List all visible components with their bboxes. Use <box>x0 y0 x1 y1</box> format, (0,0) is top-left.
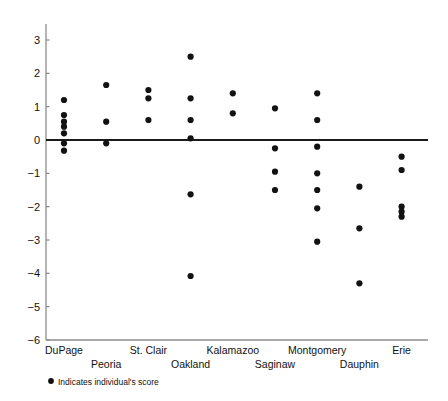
data-point <box>314 90 320 96</box>
data-point <box>61 97 67 103</box>
category-label: Erie <box>392 344 411 356</box>
data-point <box>314 205 320 211</box>
data-point <box>103 140 109 146</box>
data-point <box>61 130 67 136</box>
category-label: St. Clair <box>130 344 168 356</box>
y-tick-label: 1 <box>34 101 40 113</box>
y-tick-label: 2 <box>34 67 40 79</box>
data-point <box>188 135 194 141</box>
chart-canvas: 3210−1−2−3−4−5−6 DuPagePeoriaSt. ClairOa… <box>0 0 448 401</box>
category-label-group: DuPagePeoriaSt. ClairOaklandKalamazooSag… <box>45 344 411 370</box>
category-label: Peoria <box>91 358 122 370</box>
data-point <box>314 239 320 245</box>
legend-marker-icon <box>48 378 54 384</box>
data-point <box>61 124 67 130</box>
data-point <box>230 110 236 116</box>
data-point <box>272 145 278 151</box>
y-tick-label: 0 <box>34 134 40 146</box>
chart-legend: Indicates individual's score <box>48 377 159 387</box>
data-point <box>103 82 109 88</box>
data-point <box>188 54 194 60</box>
data-point <box>399 154 405 160</box>
data-point <box>188 95 194 101</box>
y-tick-label-group: 3210−1−2−3−4−5−6 <box>27 34 40 346</box>
category-label: Montgomery <box>288 344 347 356</box>
category-label: Saginaw <box>255 358 296 370</box>
data-point <box>314 187 320 193</box>
data-point <box>272 169 278 175</box>
data-point <box>399 167 405 173</box>
data-point <box>399 214 405 220</box>
data-point <box>230 90 236 96</box>
legend-label-text: Indicates individual's score <box>58 377 159 387</box>
data-point <box>145 87 151 93</box>
data-point <box>61 148 67 154</box>
category-label: Dauphin <box>340 358 379 370</box>
data-point <box>188 191 194 197</box>
data-point <box>356 184 362 190</box>
category-label: DuPage <box>45 344 83 356</box>
y-tick-label: −6 <box>27 334 40 346</box>
scatter-chart: 3210−1−2−3−4−5−6 DuPagePeoriaSt. ClairOa… <box>0 0 448 401</box>
data-point <box>356 225 362 231</box>
category-label: Kalamazoo <box>207 344 260 356</box>
category-label: Oakland <box>171 358 210 370</box>
y-tick-label: −5 <box>27 301 40 313</box>
data-point-group <box>61 54 405 287</box>
data-point <box>314 117 320 123</box>
y-tick-label: −1 <box>27 167 40 179</box>
y-tick-label: 3 <box>34 34 40 46</box>
data-point <box>103 119 109 125</box>
data-point <box>145 117 151 123</box>
data-point <box>314 170 320 176</box>
data-point <box>272 105 278 111</box>
data-point <box>188 117 194 123</box>
y-tick-label: −3 <box>27 234 40 246</box>
data-point <box>314 144 320 150</box>
data-point <box>188 273 194 279</box>
data-point <box>272 187 278 193</box>
data-point <box>356 280 362 286</box>
data-point <box>61 112 67 118</box>
y-tick-label: −4 <box>27 267 40 279</box>
y-tick-label: −2 <box>27 201 40 213</box>
data-point <box>61 140 67 146</box>
data-point <box>145 95 151 101</box>
